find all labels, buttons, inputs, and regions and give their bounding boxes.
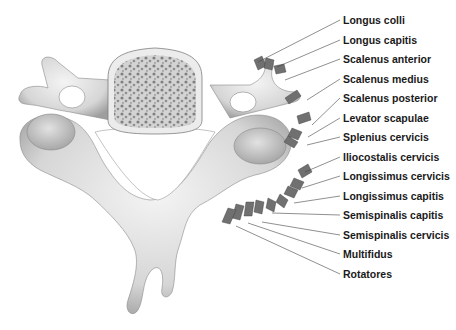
leader-line (285, 59, 340, 80)
muscle-label: Scalenus posterior (343, 92, 438, 104)
leader-line (236, 226, 340, 274)
muscle-label: Longissimus cervicis (343, 170, 450, 182)
muscle-label: Scalenus medius (343, 73, 429, 85)
muscle-label: Longissimus capitis (343, 190, 444, 202)
muscle-label: Longus colli (343, 14, 405, 26)
leader-line (294, 196, 340, 203)
muscle-label: Longus capitis (343, 34, 417, 46)
muscle-label: Multifidus (343, 248, 393, 260)
leader-line (307, 79, 340, 100)
muscle-label: Rotatores (343, 268, 392, 280)
leader-line (307, 137, 340, 145)
leader-line (248, 223, 340, 254)
muscle-label: Iliocostalis cervicis (343, 151, 439, 163)
leader-line (272, 213, 340, 215)
leader-line (305, 157, 340, 172)
leader-line (312, 98, 340, 125)
muscle-label: Splenius cervicis (343, 131, 429, 143)
leader-line (277, 40, 340, 67)
vertebra-bone (19, 48, 300, 314)
vertebra-diagram (0, 0, 456, 330)
leader-line (258, 20, 340, 62)
muscle-label: Semispinalis capitis (343, 209, 443, 221)
muscle-label: Levator scapulae (343, 112, 429, 124)
leader-line (262, 222, 340, 235)
muscle-label: Scalenus anterior (343, 53, 431, 65)
leader-line (308, 118, 340, 137)
leader-line (302, 176, 340, 188)
muscle-label: Semispinalis cervicis (343, 229, 449, 241)
